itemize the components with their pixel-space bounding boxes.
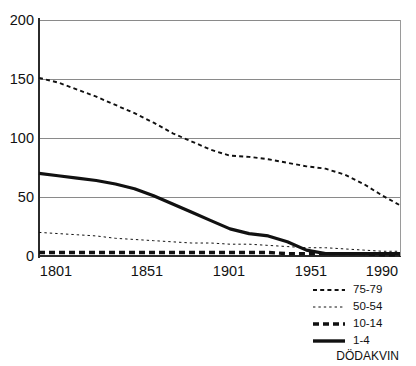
y-tick-label-0: 0 bbox=[26, 248, 34, 264]
x-tick-label-1851: 1851 bbox=[131, 263, 163, 279]
legend-item-10-14[interactable]: 10-14 bbox=[313, 317, 383, 329]
line-chart: 200 150 100 50 0 1801 1851 1901 1951 199… bbox=[0, 0, 416, 366]
legend-label-10-14: 10-14 bbox=[353, 317, 383, 329]
legend-caption: DÖDAKVIN bbox=[336, 349, 399, 363]
chart-container: 200 150 100 50 0 1801 1851 1901 1951 199… bbox=[0, 0, 416, 366]
legend-label-75-79: 75-79 bbox=[353, 283, 382, 295]
legend-label-1-4: 1-4 bbox=[353, 334, 370, 346]
y-tick-label-100: 100 bbox=[10, 130, 34, 146]
x-tick-label-1990: 1990 bbox=[366, 263, 398, 279]
x-tick-label-1951: 1951 bbox=[295, 263, 327, 279]
legend-item-75-79[interactable]: 75-79 bbox=[313, 283, 382, 295]
legend-label-50-54: 50-54 bbox=[353, 300, 383, 312]
legend: 75-79 50-54 10-14 1-4 DÖDAKVIN bbox=[313, 283, 399, 363]
y-tick-label-150: 150 bbox=[10, 71, 34, 87]
x-tick-labels: 1801 1851 1901 1951 1990 bbox=[40, 263, 398, 279]
y-tick-labels: 200 150 100 50 0 bbox=[10, 12, 34, 264]
series-layer bbox=[39, 78, 400, 255]
series-line-75-79 bbox=[39, 78, 400, 205]
gridlines bbox=[39, 20, 400, 197]
x-tick-label-1901: 1901 bbox=[213, 263, 245, 279]
y-tick-label-50: 50 bbox=[18, 189, 34, 205]
series-line-50-54 bbox=[39, 232, 400, 251]
legend-item-1-4[interactable]: 1-4 bbox=[313, 334, 370, 346]
y-tick-label-200: 200 bbox=[10, 12, 34, 28]
x-tick-label-1801: 1801 bbox=[40, 263, 72, 279]
legend-item-50-54[interactable]: 50-54 bbox=[313, 300, 383, 312]
series-line-1-4 bbox=[39, 173, 400, 253]
